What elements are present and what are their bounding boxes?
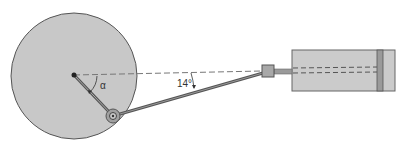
crank-pin-center xyxy=(112,115,114,117)
alpha-label: α xyxy=(100,80,106,91)
piston-rod xyxy=(274,69,292,74)
piston xyxy=(377,50,383,91)
crosshead xyxy=(262,65,274,77)
rod-angle-label: 14° xyxy=(177,78,192,89)
crank-slider-diagram: α 14° xyxy=(0,0,405,145)
rod-angle-arrowhead xyxy=(192,85,196,89)
center-pivot xyxy=(72,73,77,78)
